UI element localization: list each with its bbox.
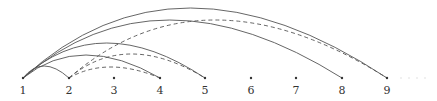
continuation-dot	[424, 77, 426, 79]
node-8-label: 8	[339, 84, 346, 97]
node-8-dot	[341, 77, 343, 79]
continuation-dot	[416, 77, 418, 79]
node-7-label: 7	[293, 84, 300, 97]
node-6-dot	[250, 77, 252, 79]
node-4-dot	[159, 77, 161, 79]
edge-2-9	[69, 20, 387, 78]
node-3-label: 3	[111, 84, 118, 97]
node-3-dot	[113, 77, 115, 79]
node-5-label: 5	[202, 84, 209, 97]
continuation-dots	[400, 77, 426, 79]
node-2-label: 2	[66, 84, 73, 97]
node-9-label: 9	[384, 84, 391, 97]
node-4-label: 4	[157, 84, 164, 97]
edge-1-4	[23, 55, 160, 78]
edge-2-4	[69, 67, 160, 78]
node-9-dot	[386, 77, 388, 79]
continuation-dot	[408, 77, 410, 79]
edge-1-5	[23, 43, 205, 78]
node-2-dot	[68, 77, 70, 79]
continuation-dot	[400, 77, 402, 79]
node-1-label: 1	[20, 84, 27, 97]
edges-group	[23, 8, 387, 78]
node-1-dot	[22, 77, 24, 79]
node-7-dot	[295, 77, 297, 79]
edge-1-9	[23, 8, 387, 78]
arc-diagram-canvas: 123456789	[0, 0, 437, 101]
nodes-group: 123456789	[20, 77, 391, 97]
arc-diagram: 123456789	[0, 0, 437, 101]
node-5-dot	[204, 77, 206, 79]
node-6-label: 6	[248, 84, 255, 97]
